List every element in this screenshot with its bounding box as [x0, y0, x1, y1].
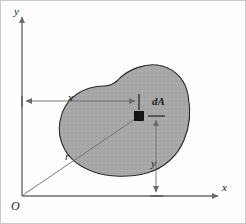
x-dimension-label: x	[68, 92, 73, 103]
dA-element-label: dA	[152, 96, 165, 107]
radius-label: r	[65, 151, 69, 162]
diagram-canvas	[0, 0, 246, 224]
origin-label: O	[11, 200, 20, 212]
x-axis-label: x	[222, 182, 227, 193]
figure-container: y x O x y r dA	[0, 0, 246, 224]
dA-element-marker	[135, 112, 144, 121]
shaded-area	[59, 65, 189, 176]
y-dimension-label: y	[151, 158, 156, 169]
y-axis-label: y	[14, 6, 19, 17]
